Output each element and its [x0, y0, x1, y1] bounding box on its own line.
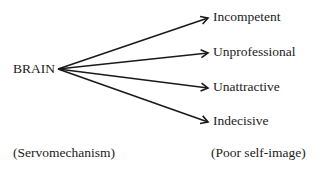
target-node-unprofessional: Unprofessional	[213, 44, 295, 60]
source-node-brain: BRAIN	[13, 61, 55, 77]
target-node-indecisive: Indecisive	[213, 113, 268, 129]
target-node-incompetent: Incompetent	[213, 9, 280, 25]
source-caption: (Servomechanism)	[13, 145, 115, 161]
arrow-to-indecisive	[58, 69, 208, 122]
arrow-to-unattractive	[58, 69, 208, 88]
target-node-unattractive: Unattractive	[213, 79, 280, 95]
targets-caption: (Poor self-image)	[211, 145, 306, 161]
